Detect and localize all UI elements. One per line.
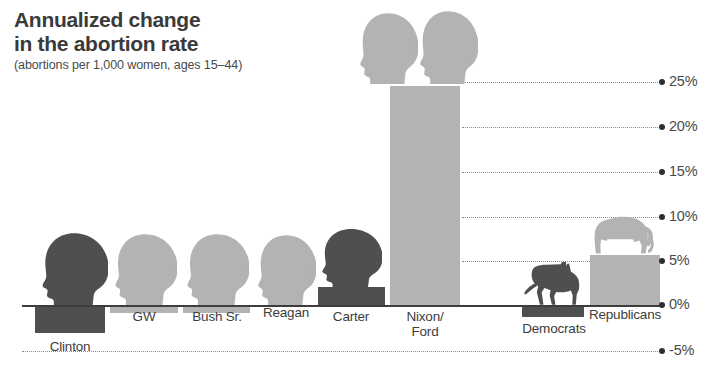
bar-republicans[interactable] <box>590 255 660 305</box>
bar-nixon-ford[interactable] <box>390 86 460 305</box>
category-label-reagan: Reagan <box>252 306 320 321</box>
axis-tick-label--5%: -5% <box>669 342 694 358</box>
axis-tick-dot-5% <box>659 258 665 264</box>
gridline-15 <box>462 172 658 173</box>
gridline-25 <box>462 82 658 83</box>
head-nixon-icon <box>358 12 418 84</box>
axis-tick-dot-10% <box>659 214 665 220</box>
category-label-republicans: Republicans <box>580 308 670 323</box>
category-label-clinton: Clinton <box>35 340 105 355</box>
head-carter-icon <box>320 228 382 288</box>
axis-tick-label-25%: 25% <box>669 73 697 89</box>
donkey-democrats-icon <box>520 262 582 306</box>
axis-tick-dot-20% <box>659 124 665 130</box>
bar-democrats[interactable] <box>522 305 584 317</box>
axis-tick-label-5%: 5% <box>669 252 690 268</box>
category-label-nixon-ford: Nixon/ Ford <box>388 310 462 339</box>
axis-tick-label-15%: 15% <box>669 163 697 179</box>
head-ford-icon <box>418 10 478 84</box>
bar-clinton[interactable] <box>35 305 105 333</box>
bar-carter[interactable] <box>318 287 385 305</box>
category-label-carter: Carter <box>316 310 386 325</box>
plot-area: 25%20%15%10%5%0%-5% ClintonGWBush Sr.Rea… <box>0 0 719 377</box>
category-label-democrats: Democrats <box>514 322 594 337</box>
infographic-chart: Annualized change in the abortion rate (… <box>0 0 719 377</box>
gridline--5 <box>22 351 658 352</box>
axis-tick-dot-25% <box>659 79 665 85</box>
elephant-republicans-icon <box>592 214 658 256</box>
head-gw-icon <box>113 233 177 305</box>
head-reagan-icon <box>256 234 316 305</box>
axis-tick-dot-15% <box>659 169 665 175</box>
category-label-bush-sr: Bush Sr. <box>181 310 253 325</box>
zero-baseline <box>22 305 662 307</box>
category-label-gw: GW <box>110 310 178 325</box>
gridline-20 <box>462 127 658 128</box>
axis-tick-dot--5% <box>659 348 665 354</box>
axis-tick-label-20%: 20% <box>669 118 697 134</box>
axis-tick-label-0%: 0% <box>669 296 690 312</box>
axis-tick-label-10%: 10% <box>669 208 697 224</box>
head-bush-sr-icon <box>185 233 249 305</box>
head-clinton-icon <box>40 232 108 306</box>
